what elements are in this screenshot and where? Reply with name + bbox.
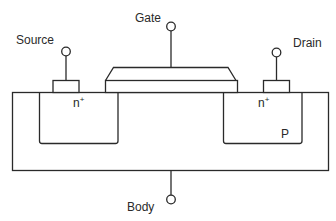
drain-well-doping: + [265,95,270,104]
mosfet-diagram: Source Gate Drain Body n+ n+ P [0,0,336,221]
gate-label: Gate [135,12,161,24]
source-well-label: n+ [73,97,84,109]
substrate-label: P [281,128,289,140]
drain-terminal-icon [272,48,281,57]
source-well-type: n [73,96,80,110]
source-contact [53,81,79,93]
gate-oxide [106,81,238,93]
source-terminal-icon [62,47,71,56]
drain-well-label: n+ [258,97,269,109]
drain-label: Drain [293,37,322,49]
gate-electrode [106,68,237,81]
drain-contact [264,81,290,93]
body-label: Body [127,201,154,213]
gate-terminal-icon [167,22,176,31]
source-well-doping: + [80,95,85,104]
source-label: Source [16,34,54,46]
drain-well-type: n [258,96,265,110]
body-terminal-icon [167,195,176,204]
